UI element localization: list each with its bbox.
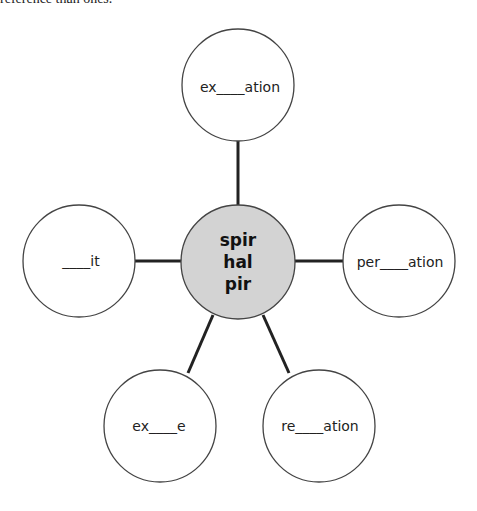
spoke-label-bottom-right: re____ation: [281, 418, 358, 434]
connector-bottom-left: [188, 315, 213, 373]
connector-bottom-right: [263, 315, 289, 373]
hub-root-1: spir: [220, 229, 257, 251]
spoke-label-right: per____ation: [357, 254, 444, 270]
hub-root-3: pir: [220, 273, 257, 295]
spoke-label-top: ex____ation: [200, 79, 280, 95]
spoke-label-bottom-left: ex____e: [132, 418, 185, 434]
spoke-label-left: ____it: [62, 253, 99, 269]
hub-label: spir hal pir: [220, 229, 257, 295]
hub-root-2: hal: [220, 251, 257, 273]
